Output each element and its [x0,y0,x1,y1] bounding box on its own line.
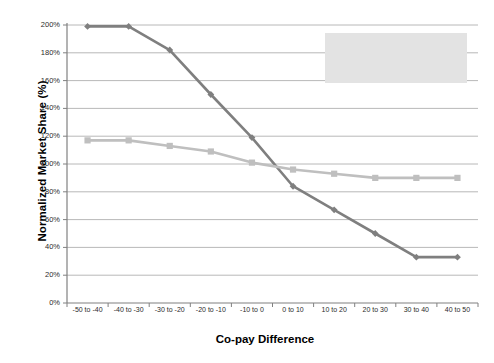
x-tick-label: -20 to -10 [190,306,231,313]
y-tick-label: 60% [22,215,60,224]
x-tick-label: -10 to 0 [231,306,272,313]
x-tick-label: 40 to 50 [437,306,478,313]
y-tick-label: 100% [22,159,60,168]
x-tick-label: 10 to 20 [314,306,355,313]
y-tick-label: 120% [22,131,60,140]
y-tick-label: 160% [22,76,60,85]
chart-legend: Me-Too Brand Differentiated Brand [325,33,467,83]
x-tick-label: 30 to 40 [396,306,437,313]
x-tick-label: 20 to 30 [355,306,396,313]
y-tick-label: 40% [22,242,60,251]
x-tick-label: -50 to -40 [67,306,108,313]
y-tick-label: 0% [22,298,60,307]
line-chart: Normalized Market Share (%) Co-pay Diffe… [0,0,494,363]
y-tick-label: 20% [22,270,60,279]
y-tick-label: 140% [22,103,60,112]
y-tick-label: 200% [22,20,60,29]
x-tick-label: -30 to -20 [149,306,190,313]
x-tick-label: 0 to 10 [273,306,314,313]
y-tick-label: 80% [22,187,60,196]
x-tick-label: -40 to -30 [108,306,149,313]
y-tick-label: 180% [22,48,60,57]
x-axis-title: Co-pay Difference [50,333,480,345]
